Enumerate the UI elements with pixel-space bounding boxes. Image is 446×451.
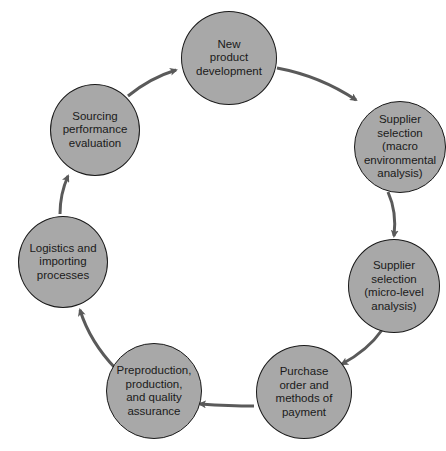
node-supplier-selection-macro: Supplier selection (macro environmental …: [354, 101, 446, 193]
node-label: Logistics and importing processes: [25, 242, 100, 283]
node-preproduction: Preproduction, production, and quality a…: [106, 343, 202, 439]
node-label: Preproduction, production, and quality a…: [113, 364, 196, 418]
node-logistics: Logistics and importing processes: [18, 216, 108, 308]
node-supplier-selection-micro: Supplier selection (micro-level analysis…: [348, 239, 440, 333]
arrow-sourcing-to-new-product: [128, 70, 176, 96]
node-label: Sourcing performance evaluation: [59, 110, 132, 151]
node-new-product-development: New product development: [181, 11, 277, 105]
arrow-logistics-to-sourcing: [60, 176, 68, 214]
node-label: Supplier selection (macro environmental …: [360, 113, 440, 181]
arrow-purchase-order-to-preproduction: [200, 404, 254, 406]
arrow-supplier-micro-to-purchase-order: [342, 330, 382, 364]
node-label: New product development: [192, 38, 266, 79]
node-label: Purchase order and methods of payment: [272, 365, 337, 419]
arrow-new-product-to-supplier-macro: [277, 68, 356, 100]
arrow-preproduction-to-logistics: [80, 310, 116, 369]
node-purchase-order: Purchase order and methods of payment: [256, 345, 352, 439]
arrow-supplier-macro-to-supplier-micro: [388, 192, 395, 236]
node-label: Supplier selection (micro-level analysis…: [360, 259, 427, 313]
node-sourcing-evaluation: Sourcing performance evaluation: [50, 84, 140, 176]
